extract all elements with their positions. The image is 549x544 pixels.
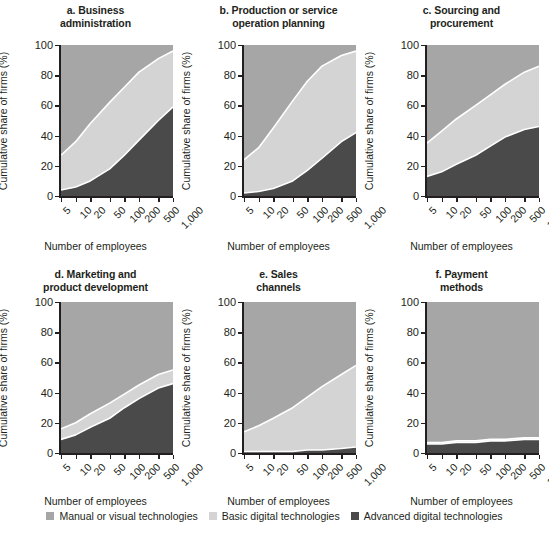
y-tick — [238, 105, 242, 106]
x-tick-label: 50 — [294, 204, 311, 221]
y-tick-label: 20 — [224, 417, 236, 429]
y-axis-title-text: Cumulative share of firms (%) — [363, 51, 375, 189]
plot-area-b — [244, 45, 356, 196]
x-axis-d — [59, 453, 173, 455]
y-tick — [421, 423, 425, 424]
panel-title-line: administration — [14, 17, 177, 30]
x-tick-label: 20 — [274, 461, 291, 478]
y-tick-label: 0 — [47, 447, 53, 459]
y-tick-label: 100 — [35, 39, 53, 51]
y-tick-label: 100 — [218, 39, 236, 51]
plot-canvas — [61, 45, 173, 196]
panel-f: f. PaymentmethodsCumulative share of fir… — [366, 262, 549, 505]
panel-b: b. Production or serviceoperation planni… — [183, 0, 366, 262]
y-tick-label: 40 — [407, 130, 419, 142]
legend-label: Advanced digital technologies — [364, 510, 503, 522]
x-tick-label: 200 — [325, 461, 346, 482]
plot-area-d — [61, 302, 173, 453]
y-tick — [238, 45, 242, 46]
x-tick — [173, 198, 174, 202]
panel-title-a: a. Businessadministration — [14, 4, 177, 29]
panel-grid: a. BusinessadministrationCumulative shar… — [0, 0, 549, 505]
y-tick-label: 20 — [224, 160, 236, 172]
x-tick-label: 20 — [457, 461, 474, 478]
plot-canvas — [427, 45, 539, 196]
y-tick — [238, 423, 242, 424]
x-axis-title-e: Number of employees — [197, 495, 360, 507]
x-tick-label: 5 — [426, 461, 439, 474]
panel-title-d: d. Marketing andproduct development — [14, 268, 177, 293]
y-tick-label: 80 — [224, 69, 236, 81]
panel-title-line: c. Sourcing and — [380, 4, 543, 17]
y-tick-label: 100 — [35, 296, 53, 308]
x-axis-e — [242, 453, 356, 455]
y-tick — [55, 105, 59, 106]
x-tick-labels-b: 51020501002005001,000 — [244, 201, 356, 235]
x-tick-label: 200 — [325, 204, 346, 225]
legend-label: Basic digital technologies — [222, 510, 340, 522]
legend-item-manual-or-visual[interactable]: Manual or visual technologies — [46, 510, 197, 522]
x-tick-labels-d: 51020501002005001,000 — [61, 458, 173, 492]
y-tick — [238, 302, 242, 303]
plot-canvas — [61, 302, 173, 453]
y-tick — [238, 362, 242, 363]
panel-title-c: c. Sourcing andprocurement — [380, 4, 543, 29]
y-axis-title-text: Cumulative share of firms (%) — [180, 308, 192, 446]
y-tick-label: 60 — [407, 99, 419, 111]
panel-title-line: product development — [14, 281, 177, 294]
x-tick-label: 50 — [477, 204, 494, 221]
y-tick — [238, 166, 242, 167]
x-tick-label: 20 — [457, 204, 474, 221]
y-tick-label: 60 — [41, 356, 53, 368]
chart-legend: Manual or visual technologiesBasic digit… — [0, 510, 549, 522]
legend-swatch-icon — [209, 512, 217, 520]
y-tick — [55, 166, 59, 167]
x-tick-label: 200 — [142, 461, 163, 482]
x-tick-label: 50 — [294, 461, 311, 478]
plot-canvas — [244, 45, 356, 196]
panel-title-line: a. Business — [14, 4, 177, 17]
y-axis-title-text: Cumulative share of firms (%) — [363, 308, 375, 446]
y-tick — [421, 75, 425, 76]
y-tick — [421, 166, 425, 167]
y-tick-label: 20 — [41, 417, 53, 429]
y-tick-label: 0 — [413, 190, 419, 202]
x-axis-b — [242, 196, 356, 198]
legend-swatch-icon — [351, 512, 359, 520]
y-tick-label: 20 — [407, 417, 419, 429]
x-axis-c — [425, 196, 539, 198]
x-tick — [539, 198, 540, 202]
y-tick-label: 80 — [407, 326, 419, 338]
y-tick-label: 0 — [230, 447, 236, 459]
area-manual-or-visual — [427, 302, 539, 442]
y-tick-label: 0 — [47, 190, 53, 202]
x-tick-label: 1,000 — [544, 461, 549, 488]
legend-item-basic-digital[interactable]: Basic digital technologies — [209, 510, 340, 522]
y-tick-label: 0 — [413, 447, 419, 459]
plot-area-c — [427, 45, 539, 196]
y-tick-label: 40 — [224, 387, 236, 399]
y-tick — [421, 393, 425, 394]
x-tick-label: 20 — [91, 461, 108, 478]
y-axis-title-d: Cumulative share of firms (%) — [0, 302, 10, 453]
x-tick-labels-e: 51020501002005001,000 — [244, 458, 356, 492]
y-tick — [55, 332, 59, 333]
x-tick — [539, 455, 540, 459]
y-tick-label: 40 — [41, 130, 53, 142]
legend-item-advanced-digital[interactable]: Advanced digital technologies — [351, 510, 503, 522]
y-tick-label: 80 — [41, 326, 53, 338]
y-tick — [55, 362, 59, 363]
y-tick-label: 40 — [41, 387, 53, 399]
plot-area-f — [427, 302, 539, 453]
y-tick — [421, 45, 425, 46]
x-axis-title-d: Number of employees — [14, 495, 177, 507]
panel-title-line: procurement — [380, 17, 543, 30]
x-axis-title-f: Number of employees — [380, 495, 543, 507]
y-tick-label: 40 — [407, 387, 419, 399]
panel-title-line: e. Sales — [197, 268, 360, 281]
x-tick-label: 200 — [142, 204, 163, 225]
y-axis-title-text: Cumulative share of firms (%) — [0, 51, 9, 189]
y-tick — [55, 393, 59, 394]
panel-c: c. Sourcing andprocurementCumulative sha… — [366, 0, 549, 262]
x-tick-label: 200 — [508, 461, 529, 482]
